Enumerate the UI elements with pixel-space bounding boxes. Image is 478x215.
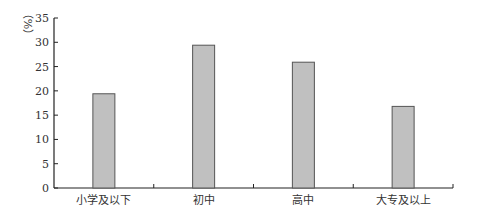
- y-tick-label: 5: [42, 158, 49, 171]
- y-tick-label: 10: [35, 133, 49, 146]
- y-axis: 05101520253035: [35, 12, 58, 195]
- bar: [193, 45, 215, 188]
- bar-chart: （%） 05101520253035 小学及以下初中高中大专及以上: [0, 0, 478, 215]
- y-tick-label: 35: [35, 12, 49, 25]
- y-axis-label: （%）: [21, 8, 34, 40]
- x-category-label: 高中: [292, 193, 314, 207]
- bars: [93, 45, 414, 188]
- y-tick-label: 0: [42, 182, 49, 195]
- y-tick-label: 20: [35, 85, 49, 98]
- y-tick-label: 15: [35, 109, 49, 122]
- y-tick-label: 30: [35, 36, 49, 49]
- y-axis-title: （%）: [21, 8, 34, 40]
- x-category-label: 大专及以上: [376, 193, 431, 207]
- x-category-label: 小学及以下: [76, 193, 131, 207]
- x-tick-labels: 小学及以下初中高中大专及以上: [76, 193, 430, 207]
- bar: [93, 94, 115, 188]
- x-category-label: 初中: [193, 193, 215, 207]
- y-tick-label: 25: [35, 61, 49, 74]
- bar: [392, 106, 414, 188]
- bar: [292, 62, 314, 188]
